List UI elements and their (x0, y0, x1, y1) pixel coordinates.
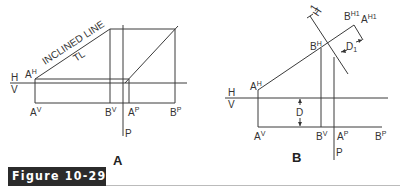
label-a-v-b: AV (254, 130, 266, 142)
panel-b: 1 H BH1 AH1 BH D1 AH H V D AV BV AP BP P… (225, 2, 388, 165)
label-b-p-b: BP (375, 130, 387, 142)
label-p-b: P (336, 147, 343, 158)
d1-arrowhead-right (358, 39, 362, 43)
label-d: D (296, 107, 303, 118)
label-h-b: H (228, 87, 235, 98)
label-v: V (11, 84, 18, 95)
top-view-line (258, 25, 354, 90)
label-b-h: BH (310, 40, 322, 52)
label-fold-h: H (311, 6, 324, 18)
label-p: P (125, 128, 132, 139)
label-a-h: AH (25, 68, 37, 80)
figure-drawing: INCLINED LINE TL AH H V AV BV AP BP P A (0, 0, 400, 186)
panel-a-caption: A (113, 153, 123, 168)
label-v-b: V (228, 99, 235, 110)
label-a-h-b: AH (250, 80, 262, 92)
label-b-h1: BH1 (344, 10, 360, 22)
panel-b-caption: B (292, 150, 301, 165)
label-b-v: BV (105, 106, 117, 118)
label-a-v: AV (30, 106, 42, 118)
label-a-p: AP (128, 106, 140, 118)
d1-extension (354, 25, 363, 40)
label-a-p-b: AP (337, 130, 349, 142)
label-b-v-b: BV (316, 130, 328, 142)
label-d1: D1 (346, 41, 357, 53)
tl-label: TL (71, 48, 87, 64)
panel-a: INCLINED LINE TL AH H V AV BV AP BP P A (10, 18, 187, 168)
h1-fold-tick (307, 14, 313, 18)
label-h: H (11, 72, 18, 83)
profile-diagonal (125, 26, 178, 83)
d-arrowhead-top (298, 99, 302, 103)
label-b-p: BP (170, 106, 182, 118)
figure-label: Figure 10-29 (12, 168, 107, 183)
d-arrowhead-bottom (298, 122, 302, 126)
figure-rule (106, 185, 400, 186)
label-a-h1: AH1 (361, 13, 377, 25)
